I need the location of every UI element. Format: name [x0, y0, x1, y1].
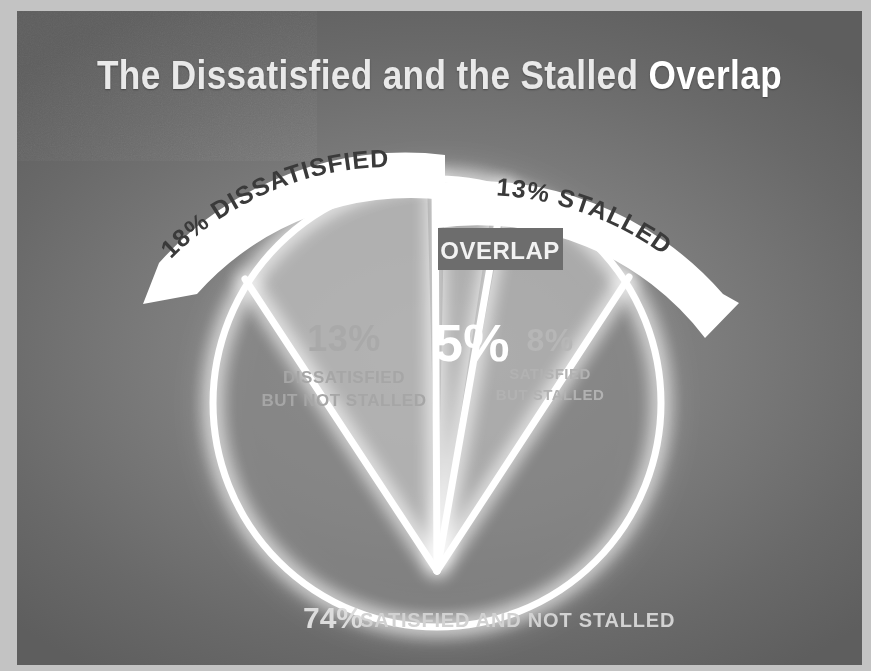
overlap-tag-label: OVERLAP	[440, 237, 560, 264]
poster-canvas: The Dissatisfied and the Stalled Overlap	[17, 11, 862, 665]
wedge-left-line1: DISSATISFIED	[283, 368, 405, 387]
wedge-left-percent: 13%	[307, 318, 381, 359]
wedge-right-percent: 8%	[526, 322, 573, 358]
infographic-root: The Dissatisfied and the Stalled Overlap	[0, 0, 871, 671]
wedge-center-percent: 5%	[434, 314, 510, 372]
wedge-right-line2: BUT STALLED	[496, 386, 605, 403]
wedge-right-line1: SATISFIED	[509, 365, 591, 382]
wedge-left-line2: BUT NOT STALLED	[262, 391, 427, 410]
footer-percent: 74%	[303, 601, 363, 634]
overlap-diagram: OVERLAP 18% DISSATISFIED 13% STALLED 13%…	[17, 11, 862, 665]
footer-text: SATISFIED AND NOT STALLED	[360, 609, 675, 631]
overlap-tag: OVERLAP	[438, 228, 563, 270]
